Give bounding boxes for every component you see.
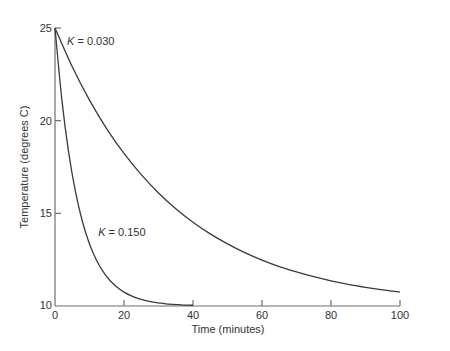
curve-series-0 xyxy=(55,28,400,292)
x-tick-label: 40 xyxy=(187,309,199,321)
cooling-curve-chart: 10152025 020406080100 K = 0.030K = 0.150… xyxy=(0,0,450,351)
y-axis-label: Temperature (degrees C) xyxy=(18,106,30,229)
y-tick-label: 20 xyxy=(40,115,52,127)
curve-label-value: = 0.150 xyxy=(105,226,145,238)
axes xyxy=(55,28,400,306)
curve-label-value: = 0.030 xyxy=(74,35,114,47)
y-tick-label: 15 xyxy=(40,207,52,219)
curve-series-1 xyxy=(55,28,193,305)
x-axis-label: Time (minutes) xyxy=(192,323,265,335)
x-axis-ticks: 020406080100 xyxy=(52,300,409,321)
x-tick-label: 20 xyxy=(118,309,130,321)
curve-label-1: K = 0.150 xyxy=(98,226,145,238)
x-tick-label: 0 xyxy=(52,309,58,321)
y-tick-label: 25 xyxy=(40,22,52,34)
y-tick-label: 10 xyxy=(40,299,52,311)
x-tick-label: 60 xyxy=(256,309,268,321)
x-tick-label: 80 xyxy=(325,309,337,321)
curve-label-0: K = 0.030 xyxy=(67,35,114,47)
curves xyxy=(55,28,400,305)
x-tick-label: 100 xyxy=(391,309,409,321)
